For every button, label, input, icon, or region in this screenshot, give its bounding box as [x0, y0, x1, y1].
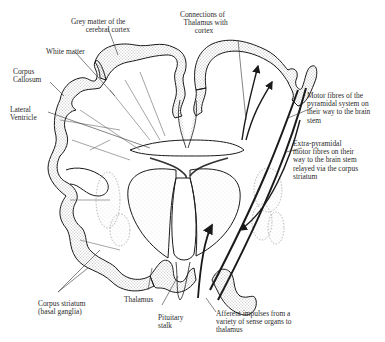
left-thalamus — [128, 169, 176, 258]
right-striatum-3 — [268, 212, 284, 244]
label-corpus-striatum: Corpus striatum (basal ganglia) — [38, 300, 85, 316]
label-lateral-ventricle: Lateral Ventricle — [10, 106, 37, 122]
label-thalamus: Thalamus — [124, 296, 153, 304]
left-striatum-2 — [110, 214, 130, 246]
left-hemisphere — [48, 44, 196, 292]
corpus-callosum — [130, 140, 244, 156]
thalamus-connection-2 — [246, 82, 272, 140]
label-motor-fibres: Motor fibres of the pyramidal system on … — [307, 92, 370, 125]
label-white-matter: White matter — [46, 48, 85, 56]
label-extra-pyramidal: Extra-pyramidal motor fibres on their wa… — [293, 140, 358, 181]
label-thalamus-connections: Connections of Thalamus with cortex — [180, 11, 228, 36]
label-corpus-callosum: Corpus Callosum — [13, 68, 41, 84]
label-afferent-impulses: Afferent impulses from a variety of sens… — [216, 310, 291, 335]
right-thalamus — [190, 169, 240, 256]
label-pituitary-stalk: Pituitary stalk — [158, 314, 183, 330]
label-grey-matter: Grey matter of the cerebral cortex — [71, 18, 130, 34]
